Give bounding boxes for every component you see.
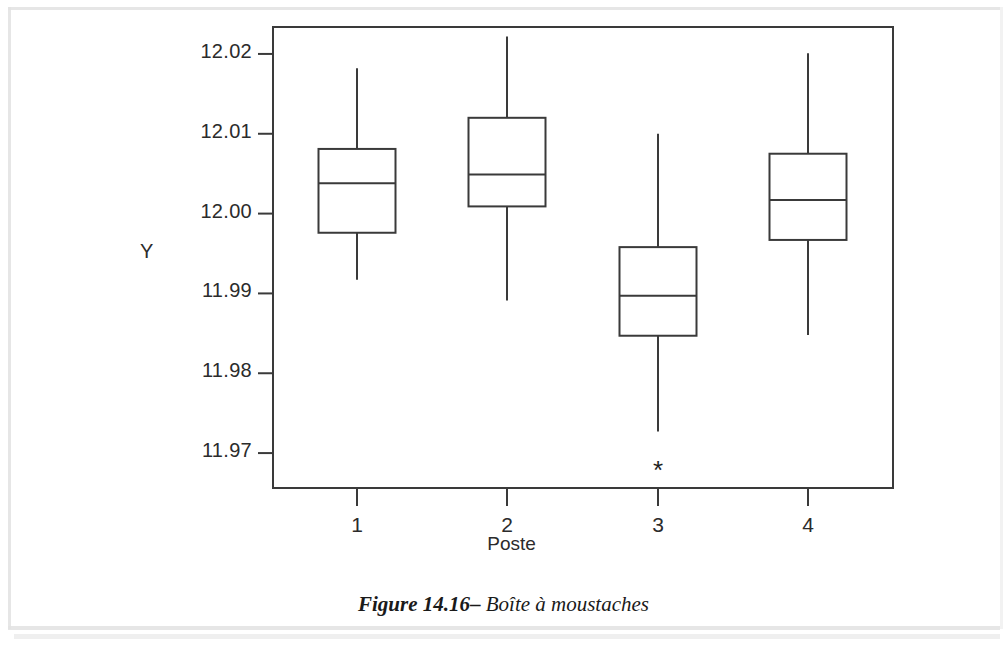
y-tick-label: 12.01	[200, 120, 252, 143]
x-axis-label: Poste	[0, 533, 1007, 555]
x-axis-ticks	[357, 489, 808, 506]
scanned-page: 11.9711.9811.9912.0012.0112.02 1234 * Y …	[0, 0, 1007, 647]
outlier-marker: *	[653, 457, 663, 483]
x-axis-label-text: Poste	[487, 533, 536, 554]
y-tick-label: 12.00	[200, 200, 252, 223]
y-axis-ticks	[258, 54, 272, 453]
y-tick-label: 11.99	[202, 279, 252, 302]
figure-caption: Figure 14.16– Boîte à moustaches	[0, 592, 1007, 617]
y-tick-label: 11.98	[202, 359, 252, 382]
caption-text: Boîte à moustaches	[486, 592, 649, 616]
y-tick-label: 12.02	[200, 40, 252, 63]
y-axis-label: Y	[140, 240, 153, 263]
boxplot-figure: 11.9711.9811.9912.0012.0112.02 1234 * Y …	[0, 0, 1007, 647]
caption-number: Figure 14.16	[358, 592, 470, 616]
caption-dash: –	[470, 592, 481, 616]
plot-frame	[272, 26, 894, 489]
y-tick-label: 11.97	[202, 439, 252, 462]
